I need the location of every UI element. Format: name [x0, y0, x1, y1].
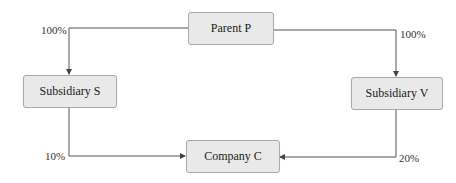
node-subsidiary-v: Subsidiary V — [351, 77, 443, 110]
edge-label-v-c: 20% — [399, 152, 419, 164]
node-label: Company C — [204, 149, 262, 164]
edge-p-to-v — [273, 30, 396, 76]
node-company-c: Company C — [186, 140, 280, 173]
edge-p-to-s — [69, 28, 188, 74]
edge-s-to-c — [69, 107, 185, 156]
edge-label-p-s: 100% — [41, 24, 67, 36]
edge-label-s-c: 10% — [45, 150, 65, 162]
node-label: Parent P — [211, 21, 251, 36]
node-label: Subsidiary S — [39, 84, 100, 99]
edge-v-to-c — [280, 110, 396, 157]
node-subsidiary-s: Subsidiary S — [23, 75, 117, 108]
node-label: Subsidiary V — [366, 86, 429, 101]
edge-label-p-v: 100% — [400, 28, 426, 40]
node-parent-p: Parent P — [188, 12, 274, 45]
